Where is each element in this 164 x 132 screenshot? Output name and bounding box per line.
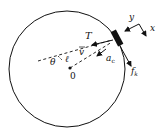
angle-arc-line [58,56,62,60]
centripetal-accel-label: ac [106,53,115,64]
tension-arrow [92,40,113,45]
center-point [68,66,71,69]
x-axis-label: x [150,23,155,33]
length-label: ℓ [65,54,69,64]
angle-label: θ [50,57,56,67]
x-axis-arrow [139,24,146,36]
origin-label: 0 [70,71,76,81]
y-axis-arrow [125,24,139,31]
block [111,30,124,47]
circular-motion-diagram: T v θ ℓ 0 ac fk y x [0,0,164,132]
tension-label: T [85,30,93,41]
y-axis-label: y [128,12,135,22]
circular-path [9,11,125,127]
velocity-label: v [79,47,84,57]
friction-label: fk [130,66,138,77]
friction-arrow [120,46,131,66]
